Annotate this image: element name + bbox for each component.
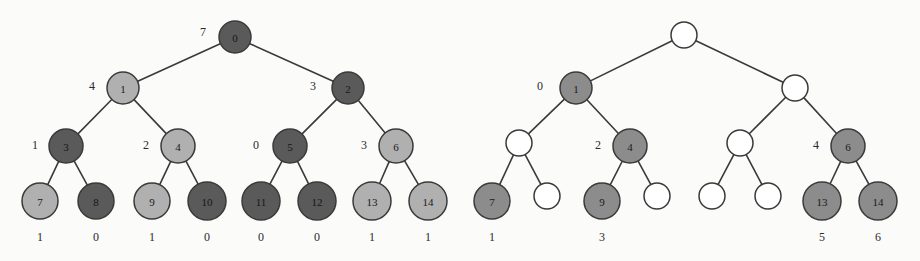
node-label-L0: 0 xyxy=(232,32,238,44)
node-annotation-group: 7431203 xyxy=(32,25,367,152)
node-label-L1: 1 xyxy=(120,83,126,95)
tree-edge-L3-L8 xyxy=(74,160,88,186)
tree-node-L11[interactable]: 11 xyxy=(242,182,280,220)
tree-node-L10[interactable]: 10 xyxy=(188,182,226,220)
tree-node-R3[interactable] xyxy=(506,130,532,156)
tree-edge-L0-L2 xyxy=(249,43,335,82)
node-label-L10: 10 xyxy=(202,196,214,208)
tree-edge-R6-R13 xyxy=(830,160,841,184)
leaf-value-L14: 1 xyxy=(425,230,431,244)
leaf-value-R13: 5 xyxy=(819,230,825,244)
tree-node-R0[interactable] xyxy=(671,22,697,48)
leaf-value-R7: 1 xyxy=(489,230,495,244)
tree-node-L14[interactable]: 14 xyxy=(409,182,447,220)
node-label-R4: 4 xyxy=(627,141,633,153)
tree-node-L4[interactable]: 4 xyxy=(161,129,195,163)
node-annotation-L6: 3 xyxy=(361,138,367,152)
tree-edge-R2-R5 xyxy=(748,96,786,134)
tree-edge-L5-L11 xyxy=(269,160,282,185)
tree-node-R10[interactable] xyxy=(644,183,670,209)
node-circle-R8[interactable] xyxy=(534,183,560,209)
node-circle-R10[interactable] xyxy=(644,183,670,209)
node-label-R9: 9 xyxy=(599,196,605,208)
tree-edge-L4-L10 xyxy=(185,160,198,185)
tree-edge-R5-R12 xyxy=(746,154,763,186)
node-label-L2: 2 xyxy=(345,83,351,95)
tree-edge-R1-R4 xyxy=(586,99,619,134)
tree-edge-L4-L9 xyxy=(159,160,171,185)
tree-edge-R3-R8 xyxy=(525,154,542,186)
tree-edge-R0-R2 xyxy=(695,40,784,83)
node-label-L12: 12 xyxy=(312,196,323,208)
node-label-R14: 14 xyxy=(873,196,885,208)
tree-edge-L6-L13 xyxy=(379,161,389,185)
tree-edge-L1-L3 xyxy=(77,99,112,135)
tree-node-R6[interactable]: 6 xyxy=(831,129,865,163)
node-circle-R2[interactable] xyxy=(782,75,808,101)
leaf-value-L12: 0 xyxy=(314,230,320,244)
tree-node-L1[interactable]: 1 xyxy=(107,72,139,104)
node-label-R13: 13 xyxy=(817,196,829,208)
tree-node-L13[interactable]: 13 xyxy=(353,182,391,220)
node-label-R7: 7 xyxy=(489,196,495,208)
node-group: 146791314 xyxy=(474,22,897,220)
tree-node-R2[interactable] xyxy=(782,75,808,101)
tree-edge-R5-R11 xyxy=(718,154,735,186)
node-label-L14: 14 xyxy=(423,196,435,208)
tree-node-L5[interactable]: 5 xyxy=(273,129,307,163)
node-circle-R0[interactable] xyxy=(671,22,697,48)
tree-edge-R2-R6 xyxy=(803,97,837,134)
tree-edge-L2-L5 xyxy=(301,99,337,135)
tree-diagram-figure: 0123456789101112131474312031010001114679… xyxy=(0,0,920,261)
tree-node-R7[interactable]: 7 xyxy=(474,183,510,219)
tree-node-R9[interactable]: 9 xyxy=(584,183,620,219)
tree-node-L6[interactable]: 6 xyxy=(379,129,413,163)
tree-node-R13[interactable]: 13 xyxy=(803,182,841,220)
tree-node-L12[interactable]: 12 xyxy=(298,182,336,220)
tree-node-L0[interactable]: 0 xyxy=(219,21,251,53)
leaf-value-L10: 0 xyxy=(204,230,210,244)
node-annotation-L4: 2 xyxy=(143,138,149,152)
node-circle-R5[interactable] xyxy=(727,130,753,156)
tree-edge-L6-L14 xyxy=(404,160,419,186)
node-annotation-L2: 3 xyxy=(310,79,316,93)
node-label-L11: 11 xyxy=(256,196,267,208)
tree-edge-L5-L12 xyxy=(297,160,309,184)
node-label-L8: 8 xyxy=(93,196,99,208)
tree-edge-R6-R14 xyxy=(856,160,870,185)
tree-edge-R1-R3 xyxy=(528,98,566,134)
node-circle-R11[interactable] xyxy=(699,183,725,209)
tree-node-L9[interactable]: 9 xyxy=(134,183,170,219)
node-circle-R3[interactable] xyxy=(506,130,532,156)
node-label-L9: 9 xyxy=(149,196,155,208)
leaf-value-L7: 1 xyxy=(37,230,43,244)
leaf-value-R9: 3 xyxy=(599,230,605,244)
node-annotation-L5: 0 xyxy=(253,138,259,152)
edge-group xyxy=(47,43,419,186)
tree-node-R8[interactable] xyxy=(534,183,560,209)
tree-node-L8[interactable]: 8 xyxy=(78,183,114,219)
tree-node-L2[interactable]: 2 xyxy=(332,72,364,104)
node-label-L6: 6 xyxy=(393,141,399,153)
tree-node-R5[interactable] xyxy=(727,130,753,156)
leaf-value-group: 1356 xyxy=(489,230,881,244)
node-circle-R12[interactable] xyxy=(755,183,781,209)
tree-node-R4[interactable]: 4 xyxy=(613,129,647,163)
edge-group xyxy=(499,40,869,186)
tree-node-R1[interactable]: 1 xyxy=(560,72,592,104)
node-annotation-L3: 1 xyxy=(32,138,38,152)
tree-node-L7[interactable]: 7 xyxy=(22,183,58,219)
tree-edge-R4-R10 xyxy=(638,160,652,185)
leaf-value-L13: 1 xyxy=(369,230,375,244)
node-label-L5: 5 xyxy=(287,141,293,153)
tree-node-R11[interactable] xyxy=(699,183,725,209)
leaf-value-L11: 0 xyxy=(258,230,264,244)
tree-edge-L3-L7 xyxy=(47,160,59,185)
leaf-value-R14: 6 xyxy=(875,230,881,244)
node-label-L7: 7 xyxy=(37,196,43,208)
tree-node-L3[interactable]: 3 xyxy=(49,129,83,163)
node-group: 01234567891011121314 xyxy=(22,21,447,220)
tree-node-R14[interactable]: 14 xyxy=(859,182,897,220)
tree-node-R12[interactable] xyxy=(755,183,781,209)
node-annotation-L0: 7 xyxy=(200,25,206,39)
